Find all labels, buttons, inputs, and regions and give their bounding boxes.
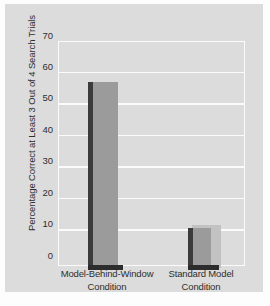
gridline-30 xyxy=(59,166,244,168)
x-label-line1: Model-Behind-Window xyxy=(61,268,154,279)
plot-inner xyxy=(59,42,244,265)
y-tick-label: 10 xyxy=(31,218,53,229)
x-label-model-behind-window: Model-Behind-Window Condition xyxy=(54,268,160,293)
x-label-line2: Condition xyxy=(152,281,250,294)
y-axis-tick-labels: 70 60 50 40 30 20 10 0 xyxy=(31,35,53,267)
y-tick-label: 0 xyxy=(31,250,53,261)
gridline-40 xyxy=(59,135,244,137)
plot-area xyxy=(58,41,245,266)
x-axis-category-labels: Model-Behind-Window Condition Standard M… xyxy=(58,268,247,298)
y-tick-label: 60 xyxy=(31,61,53,72)
bar-face xyxy=(193,228,211,265)
y-tick-label: 70 xyxy=(31,30,53,41)
y-tick-label: 20 xyxy=(31,187,53,198)
y-tick-label: 50 xyxy=(31,92,53,103)
y-tick-label: 40 xyxy=(31,124,53,135)
chart-canvas: Percentage Correct at Least 3 Out of 4 S… xyxy=(0,0,270,306)
y-tick-label: 30 xyxy=(31,155,53,166)
x-label-standard-model: Standard Model Condition xyxy=(152,268,250,293)
x-label-line1: Standard Model xyxy=(169,268,234,279)
gridline-60 xyxy=(59,72,244,74)
bar-standard-model[interactable] xyxy=(188,228,215,265)
bar-model-behind-window[interactable] xyxy=(88,82,118,265)
figure-panel: Percentage Correct at Least 3 Out of 4 S… xyxy=(5,4,263,292)
gridline-50 xyxy=(59,103,244,105)
x-label-line2: Condition xyxy=(54,281,160,294)
bar-face xyxy=(93,82,118,265)
gridline-20 xyxy=(59,198,244,200)
